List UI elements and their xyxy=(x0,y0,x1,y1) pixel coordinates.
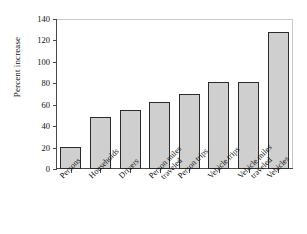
y-axis-title: Percent increase xyxy=(12,17,22,117)
y-axis-tick-label: 120 xyxy=(37,35,50,46)
y-axis-tick: 0 xyxy=(53,169,57,170)
y-axis-tick-label: 40 xyxy=(42,121,51,132)
y-axis-tick-label: 60 xyxy=(42,100,51,111)
y-axis-tick-label: 80 xyxy=(42,78,51,89)
y-axis-tick-label: 20 xyxy=(42,143,51,154)
y-axis-tick-label: 0 xyxy=(46,164,50,175)
y-axis-tick-label: 100 xyxy=(37,57,50,68)
y-axis-tick-label: 140 xyxy=(37,14,50,25)
bar-chart-figure: Percent increase 140120100806040200 Pers… xyxy=(0,0,307,234)
